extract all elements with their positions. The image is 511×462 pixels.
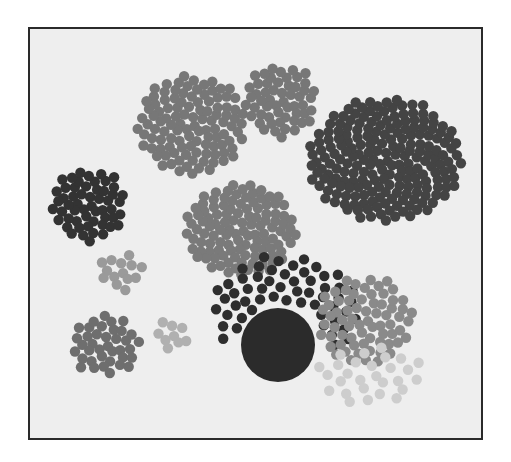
dot xyxy=(118,316,128,326)
dot xyxy=(131,273,141,283)
dot xyxy=(264,276,274,286)
dot xyxy=(334,296,344,306)
dot xyxy=(456,158,466,168)
dot xyxy=(418,100,428,110)
dot xyxy=(382,276,392,286)
dot xyxy=(118,190,128,200)
dot xyxy=(238,273,248,283)
dot xyxy=(366,275,376,285)
dot xyxy=(289,276,299,286)
dot xyxy=(351,97,361,107)
cluster-top-center-small xyxy=(241,63,319,142)
dot xyxy=(305,141,315,151)
dot xyxy=(179,71,189,81)
dot xyxy=(124,362,134,372)
dot xyxy=(222,310,232,320)
cluster-bottom-tiny-light xyxy=(153,317,191,353)
dot xyxy=(236,118,246,128)
dot xyxy=(401,333,411,343)
dot xyxy=(403,365,413,375)
dot xyxy=(345,397,355,407)
dot xyxy=(446,126,456,136)
dot xyxy=(395,143,405,153)
dot xyxy=(342,368,352,378)
dot xyxy=(385,363,395,373)
dot xyxy=(391,393,401,403)
dot xyxy=(152,151,162,161)
dot xyxy=(109,182,119,192)
dot xyxy=(273,256,283,266)
dot xyxy=(363,395,373,405)
dot xyxy=(218,321,228,331)
dot xyxy=(259,252,269,262)
dot xyxy=(335,349,345,359)
dot xyxy=(53,215,63,225)
dot xyxy=(251,212,261,222)
dot xyxy=(267,265,277,275)
dot xyxy=(389,111,399,121)
dot xyxy=(309,86,319,96)
dot xyxy=(366,211,376,221)
dot xyxy=(342,204,352,214)
dot xyxy=(52,186,62,196)
dot xyxy=(396,353,406,363)
cluster-bottom-left-medium xyxy=(70,311,144,379)
dot xyxy=(215,261,225,271)
dot xyxy=(70,346,80,356)
dot xyxy=(187,168,197,178)
dot xyxy=(100,311,110,321)
dot xyxy=(202,106,212,116)
dot xyxy=(115,209,125,219)
dot xyxy=(223,279,233,289)
dot xyxy=(322,370,332,380)
dot xyxy=(397,384,407,394)
dot xyxy=(216,83,226,93)
dot xyxy=(342,275,352,285)
dot xyxy=(211,187,221,197)
dot xyxy=(388,295,398,305)
dot xyxy=(116,326,126,336)
dot xyxy=(156,135,166,145)
dot xyxy=(299,267,309,277)
dot xyxy=(451,138,461,148)
dot xyxy=(96,169,106,179)
dot xyxy=(371,308,381,318)
dot xyxy=(449,181,459,191)
dot xyxy=(288,65,298,75)
dot xyxy=(228,180,238,190)
dot xyxy=(280,269,290,279)
dot xyxy=(207,262,217,272)
cluster-top-left-medium xyxy=(133,71,249,179)
dot xyxy=(254,261,264,271)
dot xyxy=(237,313,247,323)
dot xyxy=(407,99,417,109)
dot xyxy=(241,100,251,110)
dot xyxy=(261,209,271,219)
dot xyxy=(320,291,330,301)
dot xyxy=(307,174,317,184)
dot xyxy=(207,77,217,87)
dot xyxy=(337,330,347,340)
dot xyxy=(273,191,283,201)
dot xyxy=(141,96,151,106)
dot xyxy=(218,156,228,166)
dot xyxy=(97,257,107,267)
dot xyxy=(247,305,257,315)
dot xyxy=(230,93,240,103)
dot xyxy=(286,215,296,225)
dot xyxy=(105,368,115,378)
dot xyxy=(213,285,223,295)
dot xyxy=(378,377,388,387)
dot xyxy=(355,212,365,222)
dot xyxy=(359,348,369,358)
dot xyxy=(225,84,235,94)
dot xyxy=(329,111,339,121)
dot xyxy=(89,316,99,326)
dot xyxy=(158,317,168,327)
dot xyxy=(112,279,122,289)
dot xyxy=(412,374,422,384)
dot xyxy=(76,362,86,372)
dot xyxy=(365,97,375,107)
cluster-faint-bottom-right xyxy=(314,343,424,407)
dot xyxy=(244,82,254,92)
